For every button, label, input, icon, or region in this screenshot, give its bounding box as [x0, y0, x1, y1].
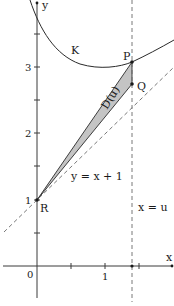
point-p-label: P [123, 50, 131, 63]
point-u-marker [130, 264, 133, 267]
line-x-equals-u-label: x = u [138, 201, 168, 214]
point-r-label: R [40, 202, 49, 215]
line-y-equals-x-plus-1-label: y = x + 1 [70, 170, 123, 183]
curve-k-label: K [71, 44, 80, 57]
y-tick-label-3: 3 [25, 62, 31, 73]
x-tick-label-1: 1 [102, 271, 108, 282]
point-q-label: Q [137, 80, 146, 93]
curve-k [30, 0, 174, 67]
point-p-marker [130, 60, 134, 64]
y-tick-label-1: 1 [25, 195, 31, 206]
diagram-canvas: y x 0 1 1 2 3 K P Q R D(u) y = x + 1 x =… [0, 0, 174, 306]
x-axis-label: x [166, 251, 173, 264]
y-axis-arrow [36, 2, 39, 5]
y-axis-label: y [41, 0, 49, 12]
point-r-marker [35, 198, 39, 202]
point-q-marker [130, 82, 134, 86]
origin-label: 0 [27, 269, 33, 280]
y-tick-label-2: 2 [25, 128, 31, 139]
x-axis-arrow [171, 265, 174, 268]
